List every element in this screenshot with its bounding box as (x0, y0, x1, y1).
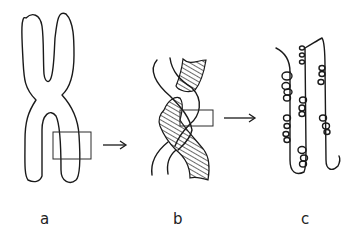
arrow-b-to-c (224, 114, 255, 122)
panel-a-chromosome (22, 13, 91, 182)
highlight-box-a (53, 132, 91, 159)
panel-label-a: a (40, 210, 49, 228)
panel-b-twisted-chromatids (152, 58, 213, 180)
panel-label-c: c (301, 210, 309, 228)
panel-label-b: b (173, 210, 183, 228)
chromosome-diagram (0, 0, 360, 238)
arrow-a-to-b (103, 141, 126, 149)
panel-c-chromatin-fibers (276, 38, 340, 174)
